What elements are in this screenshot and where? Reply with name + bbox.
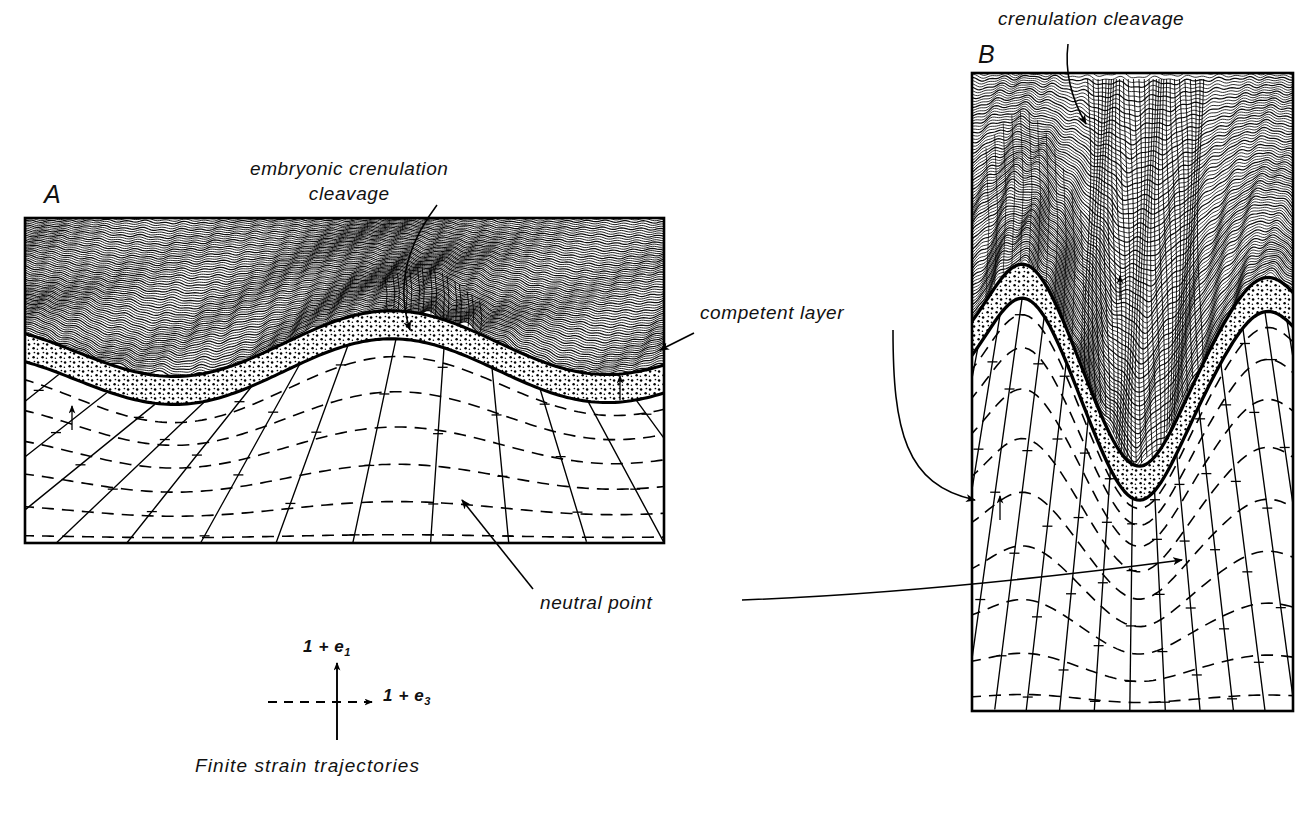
legend-artwork <box>268 663 372 740</box>
axis-label-text: 1 + e <box>383 686 424 705</box>
panel-a-label: A <box>44 180 61 209</box>
legend-caption: Finite strain trajectories <box>195 755 420 777</box>
axis-label-short-axis: 1 + e3 <box>383 686 431 707</box>
annotation-line-2: cleavage <box>250 183 448 205</box>
panel-a-artwork <box>19 216 668 545</box>
annotation-neutral-point: neutral point <box>540 592 652 614</box>
axis-label-long-axis: 1 + e1 <box>303 637 351 658</box>
annotation-crenulation-cleavage: crenulation cleavage <box>998 8 1184 30</box>
axis-label-subscript: 3 <box>424 695 431 707</box>
annotation-embryonic-crenulation-cleavage: embryonic crenulation cleavage <box>250 158 448 205</box>
axis-label-text: 1 + e <box>303 637 344 656</box>
annotation-competent-layer: competent layer <box>700 302 844 324</box>
diagram-artwork <box>0 0 1309 819</box>
axis-label-subscript: 1 <box>344 646 351 658</box>
panel-b-artwork <box>966 71 1299 712</box>
annotation-line-1: embryonic crenulation <box>250 158 448 180</box>
panel-b-label: B <box>978 40 995 69</box>
figure-canvas: A B embryonic crenulation cleavage crenu… <box>0 0 1309 819</box>
